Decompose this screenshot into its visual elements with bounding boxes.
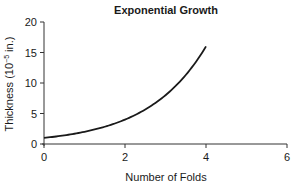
x-tick-label: 0	[41, 151, 47, 163]
y-tick-label: 0	[31, 138, 37, 150]
x-axis-label: Number of Folds	[125, 171, 207, 183]
chart-title: Exponential Growth	[114, 4, 218, 16]
x-tick-label: 2	[122, 151, 128, 163]
y-axis-label: Thickness (10−5 in.)	[3, 37, 15, 132]
y-tick-label: 20	[25, 16, 37, 28]
y-tick-label: 5	[31, 108, 37, 120]
y-axis-label-suffix: in.)	[3, 37, 15, 55]
x-tick-label: 6	[284, 151, 290, 163]
x-axis: 0246	[41, 144, 290, 163]
x-tick-label: 4	[203, 151, 209, 163]
y-axis: 05101520	[25, 16, 44, 150]
y-axis-label-exponent: −5	[3, 55, 10, 63]
series-line-thickness	[44, 46, 206, 137]
y-axis-label-base: Thickness (10	[3, 63, 15, 131]
y-tick-label: 10	[25, 77, 37, 89]
y-tick-label: 15	[25, 47, 37, 59]
exponential-growth-chart: Exponential Growth 05101520 0246 Number …	[0, 0, 295, 184]
